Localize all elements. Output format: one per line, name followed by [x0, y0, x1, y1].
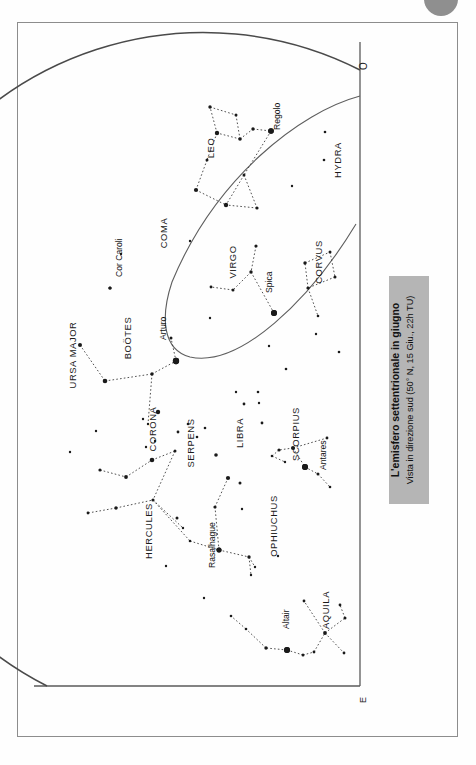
constellation-line	[231, 616, 246, 629]
constellation-line	[211, 287, 233, 290]
named-star-label: Rasalhague	[207, 522, 217, 568]
constellation-line	[219, 550, 249, 557]
star-dot	[257, 391, 260, 394]
star-dot	[317, 315, 320, 318]
constellation-label: BOÖTES	[122, 317, 133, 360]
star-dot	[302, 654, 305, 657]
star-dot	[329, 251, 332, 254]
star-dot	[243, 174, 246, 177]
star-dot	[174, 450, 177, 453]
star-dot	[247, 555, 250, 558]
named-star-label: Spica	[264, 271, 274, 293]
star-dot	[324, 131, 327, 134]
constellation-line	[226, 175, 244, 205]
star-dot	[215, 131, 219, 135]
constellation-label: CORONA	[147, 406, 158, 451]
star-dot	[142, 418, 144, 420]
compass-west-label: O	[358, 62, 369, 70]
star-dot	[245, 628, 248, 631]
constellation-line	[126, 460, 152, 477]
star-dot	[306, 286, 309, 289]
star-dot	[243, 403, 246, 406]
named-star-dot	[108, 286, 111, 289]
constellation-line	[272, 456, 285, 462]
star-dot	[209, 317, 211, 319]
constellation-label: HERCULES	[143, 503, 154, 559]
constellation-line	[100, 470, 126, 477]
named-star-label: Regolo	[272, 103, 282, 130]
star-dot	[313, 651, 316, 654]
star-dot	[69, 451, 71, 453]
star-dot	[249, 270, 252, 273]
named-star-dot	[217, 548, 222, 553]
star-dot	[303, 261, 306, 264]
star-dot	[214, 453, 218, 457]
star-dot	[315, 333, 317, 335]
star-dot	[329, 486, 332, 489]
named-star-label: Altair	[281, 609, 291, 629]
constellation-line	[325, 633, 344, 653]
star-dot	[271, 455, 274, 458]
star-dot	[170, 337, 173, 340]
star-dot	[250, 574, 252, 576]
constellation-line	[308, 288, 318, 316]
star-dot	[151, 498, 154, 501]
constellation-line	[305, 263, 308, 288]
star-dot	[334, 276, 337, 279]
star-chart-page: HYDRALEOCOMAVIRGOCORVUSURSA MAJORBOÖTESC…	[0, 0, 476, 765]
star-dot	[194, 188, 198, 192]
star-dot	[317, 473, 320, 476]
star-dot	[150, 372, 153, 375]
star-dot	[196, 436, 199, 439]
star-dot	[114, 506, 117, 509]
constellation-line	[80, 345, 105, 381]
star-dot	[285, 368, 288, 371]
star-dot	[226, 476, 230, 480]
constellation-lines	[80, 107, 345, 655]
star-dot	[291, 185, 293, 187]
caption-title: L'emisfero settentrionale in giugno	[389, 303, 401, 478]
named-star-dot	[173, 358, 179, 364]
ecliptic-arc	[165, 96, 360, 358]
constellation-line	[251, 246, 256, 272]
star-dot	[241, 508, 243, 510]
star-dot	[323, 159, 326, 162]
constellation-line	[152, 361, 176, 374]
compass-east-label: E	[358, 697, 368, 703]
star-dot	[323, 631, 327, 635]
constellation-line	[249, 557, 251, 575]
sky-chart: HYDRALEOCOMAVIRGOCORVUSURSA MAJORBOÖTESC…	[0, 0, 476, 765]
constellation-line	[244, 175, 257, 208]
constellation-line	[153, 500, 183, 528]
constellation-line	[210, 107, 217, 133]
star-dot	[165, 565, 167, 567]
caption-subtitle: Vista in direzione sud (50° N, 15 Giu., …	[405, 296, 415, 485]
star-dots	[69, 105, 347, 656]
star-dot	[189, 540, 192, 543]
constellation-line	[330, 252, 335, 277]
constellation-label: OPHIUCHUS	[268, 495, 279, 557]
star-dot	[264, 646, 267, 649]
constellation-line	[318, 474, 330, 487]
star-dot	[189, 240, 191, 242]
named-star-dots	[108, 128, 308, 653]
constellation-line	[153, 500, 190, 541]
star-dot	[235, 391, 237, 393]
constellation-label: CORVUS	[313, 240, 324, 284]
constellation-label: SCORPIUS	[290, 407, 301, 461]
constellation-line	[196, 160, 207, 190]
constellation-label: AQUILA	[320, 591, 331, 629]
star-dot	[213, 505, 216, 508]
star-dot	[87, 512, 90, 515]
star-dot	[204, 427, 207, 430]
star-dot	[284, 461, 286, 463]
star-dot	[344, 617, 347, 620]
star-dot	[208, 105, 211, 108]
named-star-dot	[302, 464, 308, 470]
constellation-line	[105, 374, 152, 381]
star-dot	[343, 652, 346, 655]
star-dot	[338, 351, 341, 354]
star-dot	[95, 430, 97, 432]
named-star-label: Antares	[318, 440, 328, 470]
constellation-line	[266, 648, 287, 650]
